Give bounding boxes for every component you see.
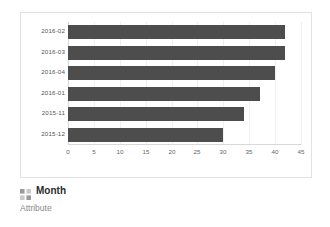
- chart-widget: 2016-022016-032016-042016-012015-112015-…: [0, 0, 330, 227]
- bar[interactable]: [68, 66, 275, 80]
- gridline: [94, 22, 95, 145]
- chart-card: 2016-022016-032016-042016-012015-112015-…: [20, 12, 312, 178]
- bar-row[interactable]: [68, 46, 301, 60]
- footer-title: Month: [36, 185, 66, 197]
- gridline: [249, 22, 250, 145]
- footer-subtitle: Attribute: [20, 203, 312, 214]
- y-axis-category-labels: 2016-022016-032016-042016-012015-112015-…: [19, 22, 65, 145]
- gridline: [120, 22, 121, 145]
- chart-footer: Month Attribute: [20, 184, 312, 214]
- grid-table-icon: [20, 186, 31, 197]
- gridline: [197, 22, 198, 145]
- bar[interactable]: [68, 107, 244, 121]
- y-axis-tick-label: 2016-02: [6, 23, 65, 42]
- bar[interactable]: [68, 87, 260, 101]
- x-axis-tick-labels: 051015202530354045: [68, 149, 301, 161]
- x-axis-tick-label: 15: [131, 149, 161, 156]
- gridline: [146, 22, 147, 145]
- bar[interactable]: [68, 25, 285, 39]
- x-axis-tick-label: 45: [286, 149, 316, 156]
- gridline: [223, 22, 224, 145]
- bar[interactable]: [68, 128, 223, 142]
- y-axis-tick-label: 2015-11: [6, 105, 65, 124]
- bar-row[interactable]: [68, 107, 301, 121]
- gridline: [301, 22, 302, 145]
- gridline: [275, 22, 276, 145]
- bar-row[interactable]: [68, 25, 301, 39]
- bar-row[interactable]: [68, 128, 301, 142]
- x-axis-line: [68, 144, 301, 145]
- y-axis-tick-label: 2015-12: [6, 125, 65, 144]
- y-axis-tick-label: 2016-03: [6, 43, 65, 62]
- bar[interactable]: [68, 46, 285, 60]
- bar-row[interactable]: [68, 87, 301, 101]
- plot-area: [68, 22, 301, 145]
- footer-title-row: Month: [20, 184, 312, 198]
- y-axis-tick-label: 2016-01: [6, 84, 65, 103]
- y-axis-tick-label: 2016-04: [6, 64, 65, 83]
- gridline: [172, 22, 173, 145]
- bar-row[interactable]: [68, 66, 301, 80]
- y-axis-line: [68, 22, 69, 145]
